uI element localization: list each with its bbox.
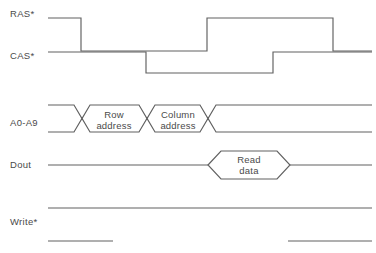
data-packet-line1: Read [237, 154, 261, 165]
bus-value-line1: Row [104, 109, 124, 120]
bus-value-line1: Column [161, 109, 195, 120]
signal-label-dout: Dout [10, 159, 31, 170]
data-packet-line2: data [239, 165, 259, 176]
timing-diagram-root: RAS*CAS*A0-A9DoutWrite* RowaddressColumn… [0, 0, 376, 253]
signal-label-cas: CAS* [10, 50, 34, 61]
signal-label-write: Write* [10, 216, 38, 227]
bus-value-line2: address [160, 120, 195, 131]
signal-label-addr: A0-A9 [10, 117, 38, 128]
bus-value-addr-1: Columnaddress [160, 109, 195, 131]
data-packet-label-dout: Readdata [237, 154, 261, 176]
bus-value-line2: address [96, 120, 131, 131]
signal-label-ras: RAS* [10, 8, 34, 19]
timing-diagram-canvas: RAS*CAS*A0-A9DoutWrite* RowaddressColumn… [0, 0, 376, 253]
